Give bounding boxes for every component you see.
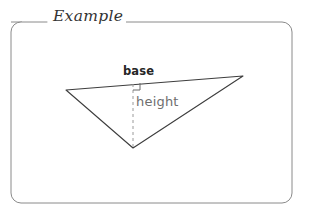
height-label: height: [136, 94, 179, 109]
figure-canvas: Example base height: [0, 0, 310, 221]
base-label: base: [123, 64, 154, 78]
example-figure-graphic: [0, 0, 310, 221]
panel-border: [11, 22, 292, 203]
figure-title: Example: [50, 7, 126, 25]
